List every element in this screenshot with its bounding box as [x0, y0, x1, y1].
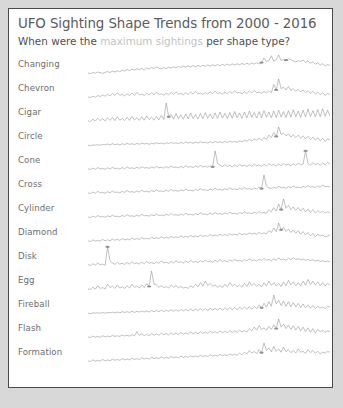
sparkline-plot	[88, 340, 330, 364]
subtitle-highlight: maximum sightings	[100, 35, 203, 47]
sparkline-row: Cone	[9, 148, 332, 172]
sparkline-row: Circle	[9, 124, 332, 148]
sparkline-plot	[88, 52, 330, 76]
sparkline-path	[88, 199, 330, 218]
sparkline-row-label: Fireball	[18, 299, 50, 309]
sparkline-path	[88, 103, 330, 122]
sparkline-max-marker	[105, 246, 109, 248]
sparkline-max-marker	[279, 229, 283, 231]
sparkline-row: Cross	[9, 172, 332, 196]
sparkline-plot	[88, 100, 330, 124]
sparkline-plot	[88, 124, 330, 148]
chart-subtitle: When were the maximum sightings per shap…	[18, 35, 332, 47]
sparkline-plot	[88, 76, 330, 100]
sparkline-max-marker	[303, 150, 307, 152]
sparkline-path	[88, 151, 330, 170]
sparkline-row-label: Circle	[18, 131, 43, 141]
sparkline-path	[88, 343, 330, 362]
sparkline-max-marker	[259, 352, 263, 354]
chart-title: UFO Sighting Shape Trends from 2000 - 20…	[18, 16, 332, 31]
sparkline-row-label: Cigar	[18, 107, 41, 117]
sparkline-max-marker	[274, 89, 278, 91]
sparkline-row-label: Cylinder	[18, 203, 54, 213]
sparkline-row: Fireball	[9, 292, 332, 316]
sparkline-max-marker	[166, 116, 170, 118]
sparkline-plot	[88, 220, 330, 244]
sparkline-max-marker	[147, 285, 151, 287]
sparkline-path	[88, 79, 330, 98]
sparkline-row: Chevron	[9, 76, 332, 100]
sparkline-row: Formation	[9, 340, 332, 364]
sparkline-path	[88, 247, 330, 266]
sparkline-max-marker	[210, 166, 214, 168]
sparkline-path	[88, 55, 330, 74]
sparkline-max-marker	[274, 135, 278, 137]
ufo-sparkline-chart-card: UFO Sighting Shape Trends from 2000 - 20…	[8, 8, 333, 388]
sparkline-row-label: Egg	[18, 275, 35, 285]
sparkline-row: Egg	[9, 268, 332, 292]
sparkline-row-label: Cross	[18, 179, 42, 189]
sparkline-path	[88, 175, 330, 194]
sparkline-max-marker	[259, 61, 263, 63]
sparkline-row: Diamond	[9, 220, 332, 244]
sparkline-plot	[88, 316, 330, 340]
sparkline-row-label: Diamond	[18, 227, 58, 237]
subtitle-prefix: When were the	[18, 35, 100, 47]
sparkline-plot	[88, 196, 330, 220]
sparkline-row-label: Cone	[18, 155, 40, 165]
sparkline-max-marker	[274, 328, 278, 330]
sparkline-max-marker	[259, 188, 263, 190]
sparkline-row: Cigar	[9, 100, 332, 124]
chart-header: UFO Sighting Shape Trends from 2000 - 20…	[9, 9, 332, 47]
sparkline-path	[88, 319, 330, 338]
sparkline-plot	[88, 292, 330, 316]
sparkline-path	[88, 223, 330, 242]
sparkline-max-marker	[259, 307, 263, 309]
sparkline-max-marker	[284, 59, 288, 61]
sparkline-row: Disk	[9, 244, 332, 268]
sparkline-path	[88, 271, 330, 290]
sparkline-row: Flash	[9, 316, 332, 340]
sparkline-row-label: Disk	[18, 251, 37, 261]
sparkline-max-marker	[279, 209, 283, 211]
sparkline-row-label: Formation	[18, 347, 62, 357]
sparkline-row: Cylinder	[9, 196, 332, 220]
sparkline-row-label: Flash	[18, 323, 41, 333]
sparkline-rows: ChangingChevronCigarCircleConeCrossCylin…	[9, 52, 332, 364]
sparkline-plot	[88, 148, 330, 172]
sparkline-row-label: Chevron	[18, 83, 55, 93]
sparkline-plot	[88, 172, 330, 196]
sparkline-path	[88, 295, 330, 314]
sparkline-plot	[88, 268, 330, 292]
sparkline-path	[88, 127, 330, 146]
subtitle-suffix: per shape type?	[203, 35, 290, 47]
sparkline-row: Changing	[9, 52, 332, 76]
sparkline-plot	[88, 244, 330, 268]
sparkline-row-label: Changing	[18, 59, 60, 69]
